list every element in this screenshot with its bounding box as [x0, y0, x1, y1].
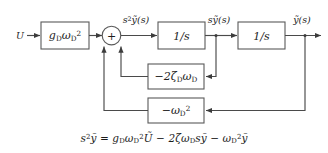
- block-gain-label: gDωD2: [49, 29, 81, 41]
- block-damping-label: −2ζDωD: [155, 70, 198, 82]
- junction-dot-position: [304, 34, 307, 37]
- block-integrator2-label: 1/s: [253, 30, 269, 41]
- block-diagram: U gDωD2 + s2ỹ(s) 1/s sỹ(s) 1/s ỹ(s) −2ζD…: [0, 0, 328, 153]
- block-integrator1-label: 1/s: [173, 30, 189, 41]
- wire-damping-to-sum: [121, 47, 148, 77]
- signal-velocity-label: sỹ(s): [208, 15, 231, 25]
- wire-velocity-tap-to-damping: [206, 36, 216, 77]
- block-stiffness-label: −ωD2: [162, 104, 191, 116]
- equation-text: s2ỹ = gDωD2Ũ − 2ζωDsỹ − ωD2ỹ: [81, 132, 248, 144]
- block-stiffness-text: −ωD2: [162, 103, 191, 116]
- summing-junction-sign: +: [107, 30, 116, 41]
- input-label: U: [16, 31, 24, 41]
- signal-position-label: ỹ(s): [293, 15, 311, 25]
- signal-velocity-text: sỹ(s): [208, 14, 231, 25]
- block-integrator2-text: 1/s: [253, 29, 269, 42]
- block-damping-text: −2ζDωD: [155, 69, 198, 82]
- signal-accel-text: s2ỹ(s): [123, 14, 150, 25]
- junction-dot-velocity: [215, 34, 218, 37]
- signal-accel-label: s2ỹ(s): [123, 15, 150, 25]
- equation: s2ỹ = gDωD2Ũ − 2ζωDsỹ − ωD2ỹ: [81, 133, 248, 146]
- block-integrator1-text: 1/s: [173, 29, 189, 42]
- wire-stiffness-to-sum: [104, 47, 148, 111]
- block-gain-text: gDωD2: [49, 28, 81, 41]
- signal-position-text: ỹ(s): [293, 14, 311, 25]
